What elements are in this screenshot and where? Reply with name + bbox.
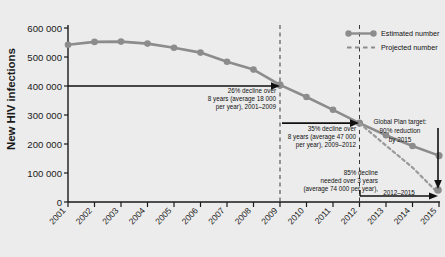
data-point-2004 (144, 40, 151, 47)
data-point-2011 (330, 107, 337, 114)
annotation-1-line-2: 8 years (average 18 000 (208, 95, 277, 103)
annotation-3-line-1: 85% decline (344, 169, 379, 176)
chart-container: New HIV infections 0 100 000 200 000 300… (0, 0, 445, 257)
annotation-1-line-3: per year), 2001–2009 (216, 103, 277, 111)
legend-label-estimated-number: Estimated number (381, 29, 440, 38)
data-point-2010 (303, 94, 310, 101)
hiv-infections-line-chart: New HIV infections 0 100 000 200 000 300… (0, 0, 445, 257)
annotation-2-line-3: per year), 2009–2012 (296, 141, 357, 149)
data-point-2007 (224, 58, 231, 65)
annotation-2-line-2: 8 years (average 47 000 (288, 133, 357, 141)
data-point-2014 (409, 143, 416, 150)
annotation-1-line-1: 26% decline over (228, 87, 276, 94)
data-point-2015 (435, 152, 442, 159)
y-tick-600000: 600 000 (27, 23, 62, 34)
y-tick-200000: 200 000 (27, 139, 62, 150)
annotation-4-line-3: by 2015 (389, 136, 412, 144)
data-point-2001 (65, 42, 72, 49)
annotation-3-line-3: (average 74 000 per year), (303, 185, 378, 193)
y-tick-100000: 100 000 (27, 168, 62, 179)
data-point-2006 (197, 49, 204, 56)
annotation-4-line-1: Global Plan target: (374, 118, 427, 126)
y-axis-title: New HIV infections (5, 48, 17, 150)
legend-label-projected-number: Projected number (381, 43, 438, 52)
annotation-3-line-2: needed over 3 years (321, 177, 378, 185)
annotation-2-line-1: 35% decline over (308, 125, 356, 132)
annotation-3-range-label: 2012–2015 (383, 189, 415, 196)
legend-marker-right-icon (370, 30, 376, 36)
y-tick-300000: 300 000 (27, 110, 62, 121)
data-point-2008 (250, 66, 257, 73)
y-tick-500000: 500 000 (27, 52, 62, 63)
data-point-2009 (276, 81, 283, 88)
data-point-2003 (118, 38, 125, 45)
legend-marker-left-icon (345, 30, 351, 36)
annotation-4-line-2: 90% reduction (380, 127, 421, 134)
data-point-2002 (91, 39, 98, 46)
y-tick-400000: 400 000 (27, 81, 62, 92)
data-point-2005 (171, 44, 178, 51)
